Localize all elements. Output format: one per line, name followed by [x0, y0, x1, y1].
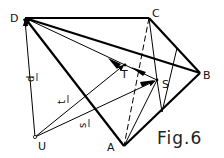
- label-A: A: [107, 141, 115, 154]
- vector-label-d: d: [25, 76, 36, 82]
- label-C: C: [152, 7, 160, 20]
- point-T: [124, 64, 127, 67]
- line-CS: [149, 18, 157, 80]
- line-AS: [124, 80, 157, 146]
- arrow-T-to-S: [131, 67, 146, 76]
- point-U: [33, 135, 36, 138]
- geometry-figure: D C B A U T S d t s Fig.6: [0, 0, 224, 158]
- label-T: T: [120, 68, 128, 81]
- arrow-U-to-S: [140, 80, 155, 87]
- label-D: D: [10, 12, 18, 25]
- label-U: U: [38, 140, 46, 153]
- svg-text:t: t: [56, 100, 67, 104]
- label-S: S: [162, 78, 169, 91]
- figure-caption: Fig.6: [157, 128, 202, 148]
- vector-label-t: t: [56, 100, 67, 104]
- vector-s: [35, 81, 155, 137]
- svg-text:s: s: [77, 123, 88, 128]
- point-S: [156, 79, 159, 82]
- svg-text:d: d: [25, 76, 36, 82]
- label-B: B: [203, 69, 211, 82]
- vector-label-s: s: [77, 123, 88, 128]
- edge-DA: [25, 18, 124, 146]
